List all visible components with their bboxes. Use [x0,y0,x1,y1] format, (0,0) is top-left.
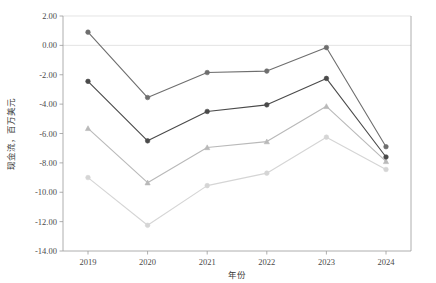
series-series-3 [85,104,388,185]
data-point-marker [384,144,389,149]
axis-frame [63,16,411,251]
data-point-marker [86,175,91,180]
data-point-marker [86,79,91,84]
x-axis-title: 年份 [228,270,246,280]
y-tick-label: -2.00 [39,70,57,80]
data-point-marker [205,109,210,114]
y-tick-label: -10.00 [35,187,57,197]
data-point-marker [205,183,210,188]
x-tick-label: 2019 [80,257,97,267]
x-tick-label: 2023 [318,257,335,267]
y-axis-title: 现金流，百万美元 [6,98,16,170]
y-axis: 2.000.00-2.00-4.00-6.00-8.00-10.00-12.00… [35,11,63,256]
data-point-marker [324,76,329,81]
data-point-marker [384,155,389,160]
x-tick-label: 2021 [199,257,216,267]
data-point-marker [85,126,90,131]
y-tick-label: 2.00 [42,11,57,21]
data-point-marker [265,103,270,108]
cash-flow-line-chart: 2.000.00-2.00-4.00-6.00-8.00-10.00-12.00… [0,0,436,283]
x-tick-label: 2022 [258,257,275,267]
data-point-marker [205,70,210,75]
axis-frame-path [63,16,411,251]
x-tick-label: 2024 [378,257,396,267]
y-tick-label: -4.00 [39,99,57,109]
gridlines [63,16,411,45]
data-point-marker [324,104,329,109]
series-series-2 [86,76,389,159]
series-line [88,32,386,147]
series-series-1 [86,30,389,149]
series-line [88,106,386,182]
data-point-marker [384,167,389,172]
y-tick-label: -14.00 [35,246,57,256]
series-series-4 [86,135,389,228]
y-tick-label: -6.00 [39,129,57,139]
data-point-marker [145,95,150,100]
y-tick-label: -8.00 [39,158,57,168]
series-line [88,137,386,225]
data-point-marker [324,45,329,50]
data-point-marker [324,135,329,140]
x-axis: 201920202021202220232024 [80,251,396,267]
data-point-marker [265,171,270,176]
data-point-marker [145,139,150,144]
x-tick-label: 2020 [139,257,156,267]
data-point-marker [145,223,150,228]
chart-canvas: 2.000.00-2.00-4.00-6.00-8.00-10.00-12.00… [0,0,436,283]
data-point-marker [86,30,91,35]
data-point-marker [265,69,270,74]
y-tick-label: 0.00 [42,40,57,50]
y-tick-label: -12.00 [35,217,57,227]
